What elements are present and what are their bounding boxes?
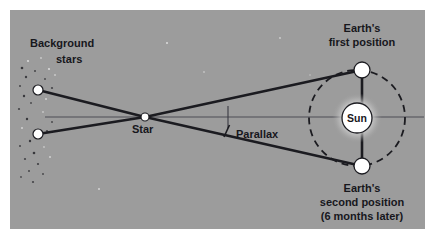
scatter-star	[23, 95, 25, 97]
scatter-star	[19, 145, 21, 147]
scatter-star	[28, 170, 30, 172]
earth-first-position-label-line2: first position	[329, 36, 396, 48]
star-marker	[141, 113, 149, 121]
background-stars-label-line2: stars	[56, 53, 82, 65]
earth-second-position-label-line1: Earth's	[344, 182, 381, 194]
scatter-star	[33, 152, 36, 155]
scatter-star	[27, 60, 29, 62]
earth-second-position-label-line3: (6 months later)	[321, 210, 404, 222]
star-label: Star	[132, 123, 154, 135]
parallax-diagram-svg: Background stars Star Parallax Sun Earth…	[0, 0, 441, 245]
scatter-star	[49, 156, 51, 158]
scatter-star	[166, 42, 168, 44]
scatter-star	[29, 140, 31, 142]
scatter-star	[54, 74, 56, 76]
parallax-diagram-figure: Background stars Star Parallax Sun Earth…	[0, 0, 441, 245]
scatter-star	[25, 76, 27, 78]
background-star-upper-marker	[33, 85, 43, 95]
scatter-star	[309, 74, 311, 76]
scatter-star	[43, 146, 45, 148]
scatter-star	[203, 71, 205, 73]
scatter-star	[18, 108, 20, 110]
scatter-star	[42, 111, 44, 113]
scatter-star	[279, 37, 281, 39]
scatter-star	[30, 102, 32, 104]
scatter-star	[19, 85, 21, 87]
scatter-star	[40, 57, 42, 59]
earth-first-position-label-line1: Earth's	[344, 22, 381, 34]
scatter-star	[51, 121, 53, 123]
scatter-star	[42, 173, 44, 175]
scatter-star	[20, 176, 22, 178]
sun-label: Sun	[347, 112, 367, 124]
earth-second-position-label-line2: second position	[320, 196, 405, 208]
scatter-star	[21, 67, 24, 70]
earth-first-position-marker	[354, 62, 370, 78]
scatter-star	[48, 68, 50, 70]
scatter-star	[45, 98, 47, 100]
scatter-star	[26, 118, 28, 120]
background-stars-label-line1: Background	[30, 37, 94, 49]
scatter-star	[37, 163, 39, 165]
earth-second-position-marker	[354, 158, 370, 174]
scatter-star	[32, 181, 34, 183]
scatter-star	[34, 70, 36, 72]
background-star-lower-marker	[33, 129, 43, 139]
scatter-star	[24, 158, 26, 160]
scatter-star	[51, 87, 53, 89]
scatter-star	[21, 127, 23, 129]
scatter-star	[98, 188, 100, 190]
scatter-star	[44, 78, 46, 80]
parallax-label: Parallax	[236, 128, 279, 140]
